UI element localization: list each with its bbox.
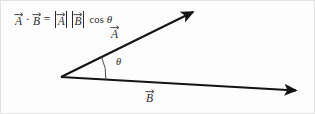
vector-diagram-canvas: [1, 1, 315, 114]
angle-arc: [102, 57, 106, 79]
dot-product-figure: A · B =: [0, 0, 315, 114]
vector-b-shaft: [61, 77, 296, 91]
vector-a-shaft: [61, 12, 193, 77]
